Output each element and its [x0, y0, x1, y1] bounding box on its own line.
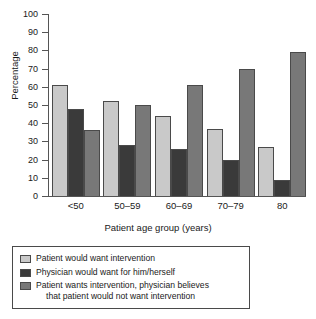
bar	[207, 129, 223, 196]
plot-area	[48, 14, 306, 196]
legend-label-continuation: that patient would not want intervention	[36, 291, 209, 302]
legend-item: Patient wants intervention, physician be…	[20, 280, 242, 301]
y-axis-tick-label: 40	[12, 119, 38, 128]
legend-label: Physician would want for him/herself	[36, 267, 175, 278]
y-axis-tick-label: 0	[12, 192, 38, 201]
bar-group	[52, 14, 100, 196]
x-axis-tick-label: 80	[247, 200, 316, 211]
y-axis-tick-label: 90	[12, 28, 38, 37]
y-axis-tick-label: 60	[12, 83, 38, 92]
bar	[119, 145, 135, 196]
x-axis-title: Patient age group (years)	[0, 222, 316, 233]
y-axis-tick-label: 30	[12, 137, 38, 146]
bar	[135, 105, 151, 196]
legend-label: Patient would want intervention	[36, 253, 155, 264]
bar	[171, 149, 187, 196]
chart-legend: Patient would want interventionPhysician…	[12, 246, 250, 309]
y-axis-tick-label: 20	[12, 156, 38, 165]
bar	[290, 52, 306, 196]
legend-swatch-icon	[20, 269, 31, 277]
y-axis-tick-label: 100	[12, 10, 38, 19]
bar-group	[258, 14, 306, 196]
chart-figure: Percentage 0102030405060708090100 <5050–…	[0, 0, 316, 319]
bar-group	[155, 14, 203, 196]
bar	[274, 180, 290, 196]
y-axis-tick-label: 80	[12, 46, 38, 55]
y-axis-tick-label: 50	[12, 101, 38, 110]
bar-group	[103, 14, 151, 196]
legend-item: Patient would want intervention	[20, 253, 242, 264]
bar	[155, 116, 171, 196]
bar	[84, 130, 100, 196]
legend-label: Patient wants intervention, physician be…	[36, 280, 209, 301]
y-axis-tick-label: 10	[12, 174, 38, 183]
y-axis-tick	[42, 196, 48, 197]
y-axis-tick-label: 70	[12, 65, 38, 74]
bar	[187, 85, 203, 196]
y-axis-title: Percentage	[9, 26, 20, 126]
x-axis-line	[48, 196, 306, 197]
legend-item: Physician would want for him/herself	[20, 267, 242, 278]
bar	[52, 85, 68, 196]
bar	[223, 160, 239, 196]
legend-swatch-icon	[20, 282, 31, 290]
bar-group	[207, 14, 255, 196]
legend-swatch-icon	[20, 255, 31, 263]
bar	[68, 109, 84, 196]
bar	[258, 147, 274, 196]
bar	[103, 101, 119, 196]
bar	[239, 69, 255, 196]
